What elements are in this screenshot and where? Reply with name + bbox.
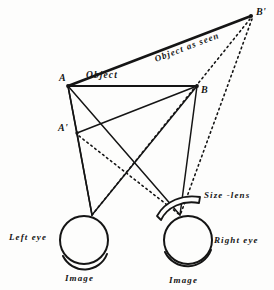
segment-a-to-a-prime: [68, 86, 77, 133]
label-left-eye: Left eye: [8, 232, 47, 242]
point-marker-a-prime: [75, 131, 78, 134]
ray-lines-group: [68, 86, 197, 215]
left-eye-group: [60, 216, 108, 269]
label-object-as-seen: Object as seen: [153, 30, 220, 64]
label-point-a: A: [58, 72, 66, 83]
label-point-b-prime: B': [255, 6, 266, 17]
left-eye-circle: [60, 216, 108, 264]
label-point-b: B: [200, 84, 208, 95]
ray-a-prime-to-left-eye: [77, 133, 92, 215]
label-image-left: Image: [64, 273, 94, 283]
label-point-a-prime: A': [57, 122, 68, 133]
point-marker-a: [66, 84, 70, 88]
right-eye-group: [164, 216, 212, 266]
right-eye-circle: [164, 216, 212, 264]
label-object: Object: [86, 70, 118, 80]
optics-diagram: A B A' B' Object Object as seen Size -le…: [0, 0, 274, 290]
figure-root: A B A' B' Object Object as seen Size -le…: [0, 0, 274, 290]
dotted-ray-a-prime-to-right-eye: [79, 136, 180, 215]
segment-a-prime-to-b: [77, 86, 197, 133]
label-image-right: Image: [168, 275, 198, 285]
label-right-eye: Right eye: [213, 235, 259, 245]
label-size-lens: Size -lens: [204, 190, 250, 200]
point-marker-b-prime: [249, 14, 253, 18]
point-marker-b: [195, 84, 199, 88]
ray-a-to-right-eye: [68, 86, 180, 215]
